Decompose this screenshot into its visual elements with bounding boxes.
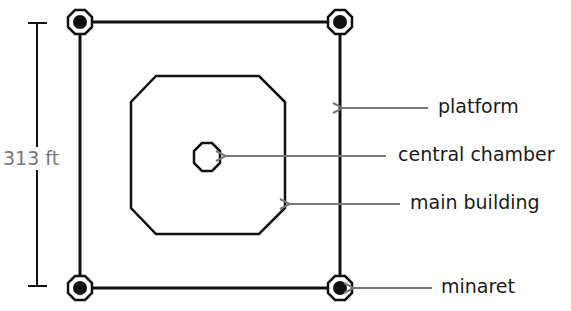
central-chamber-outline bbox=[194, 143, 220, 171]
minaret-bottom-right bbox=[328, 276, 352, 300]
main-building-label: main building bbox=[410, 193, 540, 212]
platform-label: platform bbox=[438, 97, 519, 116]
minaret-top-left bbox=[68, 10, 92, 34]
dimension-label: 313 ft bbox=[3, 147, 59, 170]
central-chamber-label: central chamber bbox=[398, 145, 555, 164]
minaret-label: minaret bbox=[441, 277, 515, 296]
minaret-bottom-left bbox=[68, 276, 92, 300]
minaret-top-right bbox=[328, 10, 352, 34]
